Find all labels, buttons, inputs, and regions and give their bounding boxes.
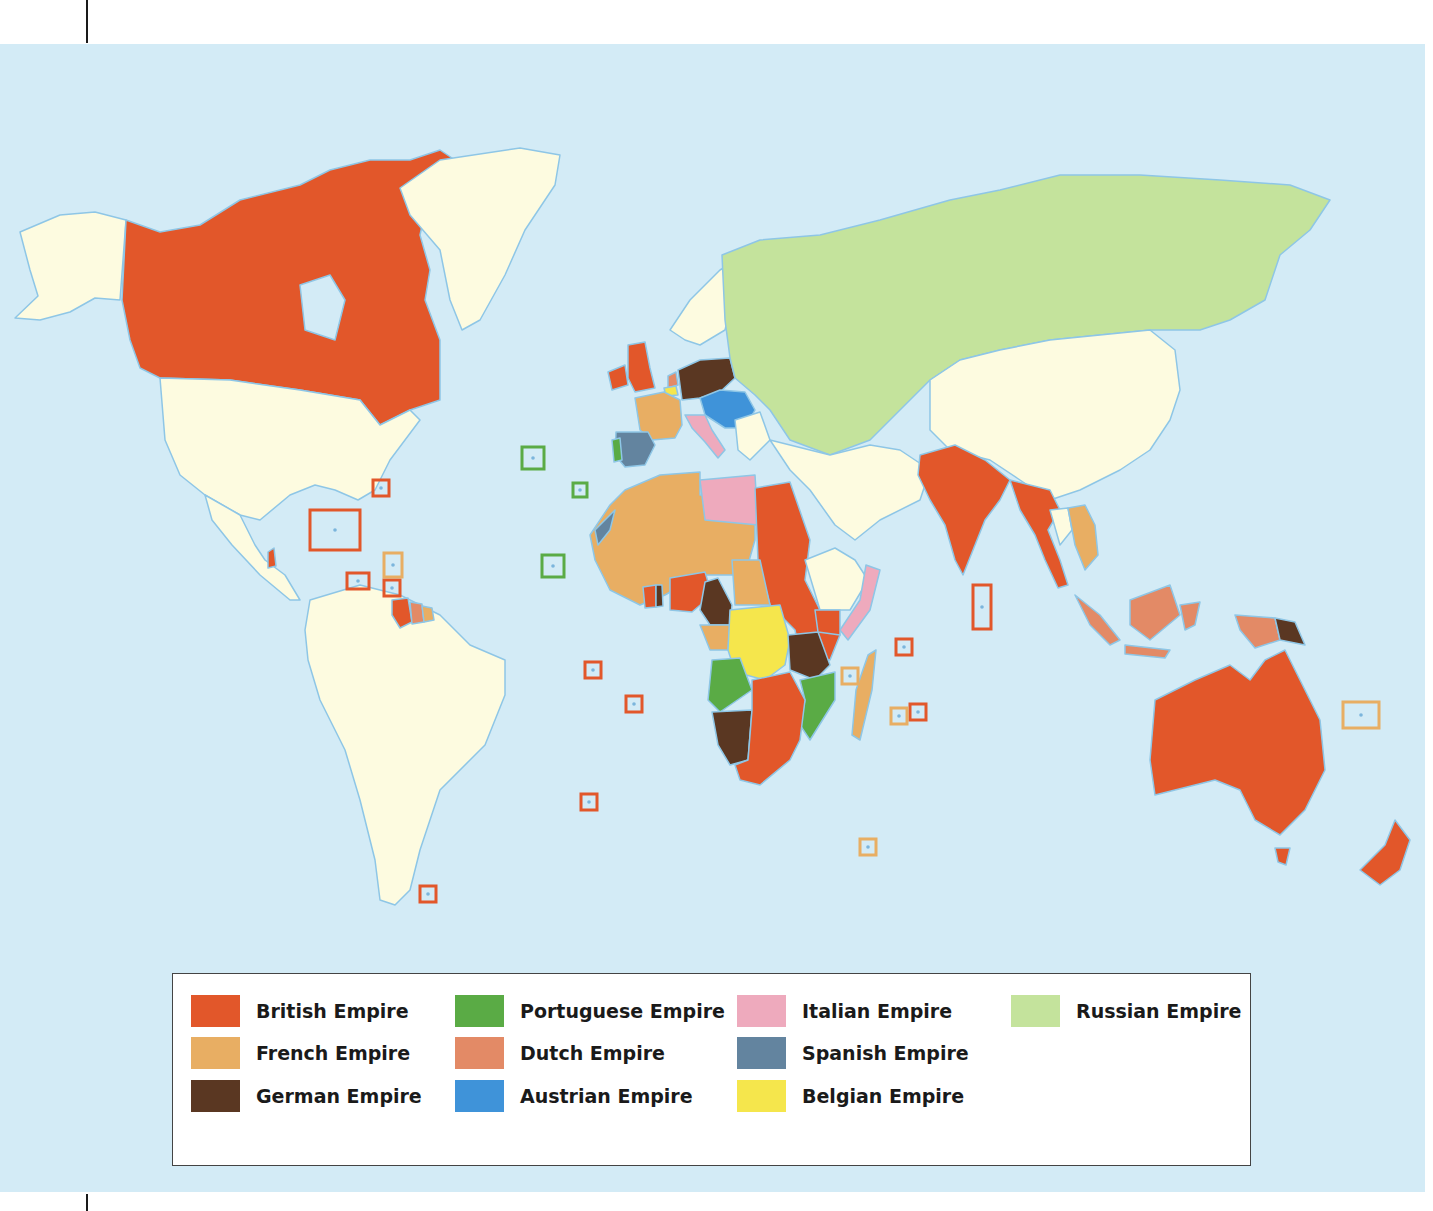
island-marker bbox=[531, 456, 535, 460]
legend-item-german: German Empire bbox=[191, 1080, 422, 1112]
legend-label-spanish: Spanish Empire bbox=[802, 1042, 969, 1064]
legend-label-french: French Empire bbox=[256, 1042, 410, 1064]
island-marker bbox=[866, 845, 870, 849]
world-map-panel: British Empire French Empire German Empi… bbox=[0, 44, 1425, 1192]
island-marker bbox=[356, 579, 360, 583]
legend-label-german: German Empire bbox=[256, 1085, 422, 1107]
region-australia bbox=[1150, 650, 1325, 835]
legend-swatch-spanish bbox=[737, 1037, 786, 1069]
island-marker bbox=[902, 645, 906, 649]
region-tasmania bbox=[1275, 848, 1290, 865]
page-margin-bottom bbox=[0, 1192, 1433, 1211]
legend-label-dutch: Dutch Empire bbox=[520, 1042, 665, 1064]
legend-swatch-british bbox=[191, 995, 240, 1027]
island-marker bbox=[379, 486, 383, 490]
legend-item-french: French Empire bbox=[191, 1037, 410, 1069]
legend-item-spanish: Spanish Empire bbox=[737, 1037, 969, 1069]
region-british-honduras bbox=[268, 548, 276, 568]
legend-swatch-dutch bbox=[455, 1037, 504, 1069]
legend-item-british: British Empire bbox=[191, 995, 409, 1027]
legend-label-austrian: Austrian Empire bbox=[520, 1085, 693, 1107]
legend-label-portuguese: Portuguese Empire bbox=[520, 1000, 725, 1022]
region-balkans bbox=[735, 412, 770, 460]
island-marker bbox=[333, 528, 337, 532]
region-libya bbox=[700, 475, 758, 525]
legend-item-portuguese: Portuguese Empire bbox=[455, 995, 725, 1027]
region-kamerun bbox=[700, 578, 732, 625]
crop-mark-top bbox=[86, 0, 88, 43]
legend-label-british: British Empire bbox=[256, 1000, 409, 1022]
region-mozambique bbox=[800, 672, 835, 740]
region-german-southwest-africa bbox=[712, 710, 752, 765]
legend-swatch-belgian bbox=[737, 1080, 786, 1112]
region-britain bbox=[628, 342, 655, 392]
legend-item-austrian: Austrian Empire bbox=[455, 1080, 693, 1112]
region-indochina bbox=[1068, 505, 1098, 570]
region-alaska bbox=[15, 212, 126, 320]
legend-item-russian: Russian Empire bbox=[1011, 995, 1241, 1027]
region-portugal bbox=[612, 438, 622, 462]
island-marker bbox=[1359, 713, 1363, 717]
island-marker bbox=[632, 702, 636, 706]
island-marker bbox=[551, 564, 555, 568]
legend-swatch-russian bbox=[1011, 995, 1060, 1027]
legend-swatch-french bbox=[191, 1037, 240, 1069]
region-new-zealand bbox=[1360, 820, 1410, 885]
island-marker bbox=[897, 714, 901, 718]
region-british-east-africa bbox=[815, 610, 840, 635]
legend-item-dutch: Dutch Empire bbox=[455, 1037, 665, 1069]
island-marker bbox=[587, 800, 591, 804]
region-german-new-guinea bbox=[1275, 618, 1305, 645]
island-marker bbox=[980, 605, 984, 609]
island-marker bbox=[391, 563, 395, 567]
island-marker bbox=[578, 488, 582, 492]
legend-swatch-portuguese bbox=[455, 995, 504, 1027]
region-dutch-east-indies bbox=[1075, 585, 1280, 658]
legend: British Empire French Empire German Empi… bbox=[172, 973, 1251, 1166]
legend-label-belgian: Belgian Empire bbox=[802, 1085, 964, 1107]
island-marker bbox=[591, 668, 595, 672]
island-marker bbox=[426, 892, 430, 896]
legend-swatch-german bbox=[191, 1080, 240, 1112]
island-marker bbox=[916, 710, 920, 714]
region-madagascar bbox=[852, 650, 876, 740]
legend-swatch-italian bbox=[737, 995, 786, 1027]
island-marker bbox=[848, 674, 852, 678]
region-french-guiana bbox=[422, 606, 434, 622]
region-ireland bbox=[608, 365, 628, 390]
legend-item-belgian: Belgian Empire bbox=[737, 1080, 964, 1112]
page-margin-top bbox=[0, 0, 1433, 44]
crop-mark-bottom bbox=[86, 1194, 88, 1211]
island-marker bbox=[390, 586, 394, 590]
region-togo bbox=[656, 585, 663, 607]
region-gold-coast bbox=[643, 585, 656, 608]
legend-label-italian: Italian Empire bbox=[802, 1000, 952, 1022]
region-south-america bbox=[305, 585, 505, 905]
legend-item-italian: Italian Empire bbox=[737, 995, 952, 1027]
legend-swatch-austrian bbox=[455, 1080, 504, 1112]
legend-label-russian: Russian Empire bbox=[1076, 1000, 1241, 1022]
